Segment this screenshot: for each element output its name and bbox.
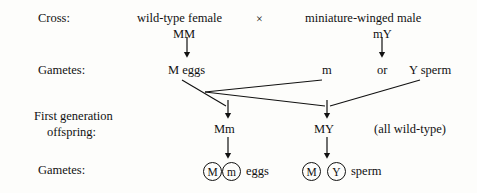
gamete-conjunction: or	[377, 64, 387, 78]
row-label-offspring-line2: offspring:	[47, 126, 96, 140]
sperm-gamete-y-label: Y sperm	[409, 64, 451, 78]
female-parent-label: wild-type female	[137, 12, 222, 26]
offspring-genotype-my: MY	[314, 123, 334, 137]
line-egg-to-my	[205, 92, 325, 106]
egg-gamete-label: M eggs	[168, 64, 205, 78]
sperm-gamete-circle-y: Y	[327, 162, 346, 181]
sperm-gametes-group: M Y sperm	[302, 162, 382, 181]
offspring-phenotype-note: (all wild-type)	[374, 123, 446, 137]
egg-gametes-caption: eggs	[246, 164, 269, 179]
sperm-gametes-caption: sperm	[351, 164, 382, 179]
genetics-cross-diagram: Cross: wild-type female × miniature-wing…	[0, 0, 477, 193]
egg-gamete-circle-m-recessive: m	[222, 162, 241, 181]
egg-gametes-group: M m eggs	[203, 162, 269, 181]
sperm-gamete-m-label: m	[322, 64, 332, 78]
egg-gamete-circle-m: M	[203, 162, 222, 181]
row-label-cross: Cross:	[38, 12, 70, 26]
line-y-sperm-to-my	[330, 80, 420, 106]
line-egg-to-mm	[182, 80, 226, 106]
row-label-offspring-line1: First generation	[34, 110, 113, 124]
row-label-gametes-first: Gametes:	[38, 64, 85, 78]
male-parent-label: miniature-winged male	[305, 12, 421, 26]
sperm-gamete-circle-m: M	[302, 162, 321, 181]
row-label-gametes-second: Gametes:	[38, 164, 85, 178]
male-genotype: mY	[373, 28, 392, 42]
offspring-genotype-mm: Mm	[214, 123, 235, 137]
line-m-sperm-to-mm	[205, 80, 322, 92]
cross-symbol: ×	[256, 13, 263, 26]
female-genotype: MM	[173, 28, 195, 42]
